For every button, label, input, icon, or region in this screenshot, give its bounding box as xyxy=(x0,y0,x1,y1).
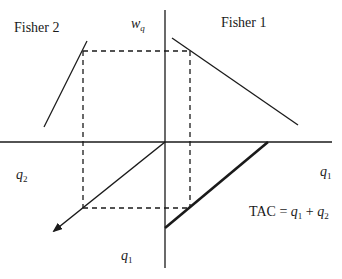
wq-label: wq xyxy=(131,17,145,33)
fishery-tac-diagram: Fisher 2 Fisher 1 wq q2 q1 q1 TAC = q1 +… xyxy=(0,0,342,279)
fisher1-line xyxy=(172,38,298,125)
dashed-rectangle xyxy=(83,51,190,208)
diagram-lines xyxy=(0,0,342,279)
fisher2-line xyxy=(44,41,87,127)
q1-bottom-label: q1 xyxy=(121,249,133,265)
fisher1-label: Fisher 1 xyxy=(221,16,267,30)
arrow-45deg-line xyxy=(54,142,165,231)
q2-axis-label: q2 xyxy=(16,168,28,184)
q1-axis-label: q1 xyxy=(320,165,332,181)
fisher2-label: Fisher 2 xyxy=(14,21,60,35)
tac-equation-label: TAC = q1 + q2 xyxy=(249,205,329,221)
